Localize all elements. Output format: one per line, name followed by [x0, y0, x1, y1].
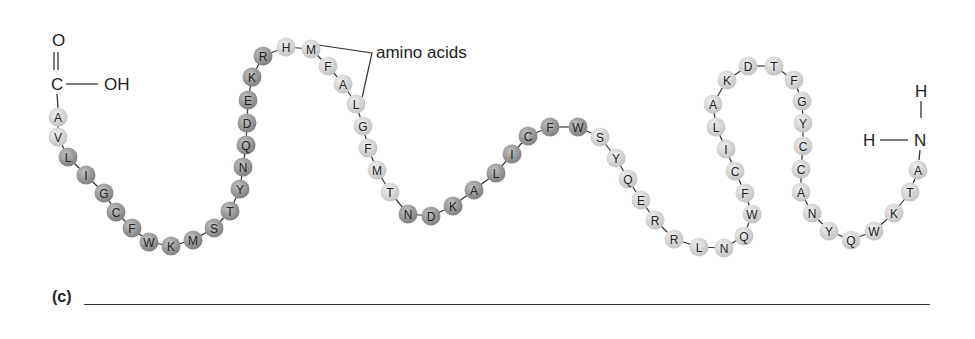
- residue-letter: C: [524, 130, 533, 144]
- amino-acid-residue: L: [707, 118, 726, 137]
- residue-letter: N: [239, 161, 248, 175]
- residue-letter: A: [914, 164, 922, 178]
- residue-letter: Y: [799, 117, 807, 131]
- amino-acid-residue: W: [140, 233, 159, 252]
- hydrogen-top-label: H: [915, 82, 927, 101]
- amino-acid-residue: Q: [735, 227, 754, 246]
- amino-acid-residue: I: [717, 140, 736, 159]
- residue-letter: G: [358, 120, 367, 134]
- residue-letter: S: [210, 222, 218, 236]
- amino-acid-residue: V: [49, 128, 68, 147]
- amino-acid-residue: T: [765, 57, 784, 76]
- amino-acid-residue: A: [334, 75, 353, 94]
- amino-acid-residue: T: [221, 202, 240, 221]
- residue-letter: M: [306, 43, 316, 57]
- amino-acid-residue: F: [736, 184, 755, 203]
- residue-letter: A: [797, 186, 805, 200]
- amino-acid-residue: W: [743, 205, 762, 224]
- amino-acid-residue: L: [690, 238, 709, 257]
- amino-acid-residue: F: [123, 219, 142, 238]
- amino-acid-residue: C: [792, 160, 811, 179]
- amino-acid-residue: A: [49, 108, 68, 127]
- amino-acid-residue: K: [718, 71, 737, 90]
- residue-letter: F: [364, 142, 371, 156]
- amino-acid-residue: A: [704, 95, 723, 114]
- carboxyl-group: O C OH: [51, 31, 130, 108]
- amino-acid-residue: F: [359, 139, 378, 158]
- amino-acid-residue: G: [354, 117, 373, 136]
- amino-acid-residue: R: [665, 230, 684, 249]
- amino-acid-residue: A: [465, 181, 484, 200]
- amino-group: H H N: [863, 82, 927, 160]
- amino-acid-residue: Y: [794, 114, 813, 133]
- residue-letter: R: [651, 214, 660, 228]
- amino-acid-residue: C: [107, 203, 126, 222]
- amino-acid-residue: I: [77, 166, 96, 185]
- amino-acid-residue: E: [239, 91, 258, 110]
- residue-letter: C: [731, 165, 740, 179]
- residue-letter: M: [188, 234, 198, 248]
- residue-letter: E: [244, 94, 252, 108]
- residue-letter: E: [637, 194, 645, 208]
- answer-line[interactable]: [84, 304, 930, 305]
- residue-letter: F: [324, 60, 331, 74]
- amino-acid-residue: L: [347, 95, 366, 114]
- amino-acid-residue: H: [277, 38, 296, 57]
- amino-acid-residue: Y: [231, 180, 250, 199]
- amino-acid-residue: N: [803, 204, 822, 223]
- amino-acids-label: amino acids: [376, 43, 467, 62]
- residue-letter: H: [282, 41, 291, 55]
- residue-letter: K: [167, 240, 175, 254]
- residue-letter: W: [746, 208, 758, 222]
- amino-acid-residue: R: [646, 211, 665, 230]
- amino-acid-residue: K: [243, 68, 262, 87]
- amino-acid-residue: R: [254, 47, 273, 66]
- hydrogen-left-label: H: [863, 131, 875, 150]
- polypeptide-diagram: O C OH H H N amino acids AVLIGCFWKMSTYNQ…: [0, 0, 975, 339]
- amino-acid-residue: L: [487, 164, 506, 183]
- residue-letter: F: [790, 74, 797, 88]
- residue-letter: K: [248, 71, 256, 85]
- residue-letter: F: [546, 121, 553, 135]
- amino-acid-residue: S: [591, 128, 610, 147]
- amino-acid-residue: N: [234, 158, 253, 177]
- amino-acid-residue: F: [785, 71, 804, 90]
- amino-acid-residue: C: [519, 127, 538, 146]
- residue-letter: Q: [241, 139, 250, 153]
- residue-letter: Y: [612, 152, 620, 166]
- residue-letter: A: [470, 184, 478, 198]
- amino-acid-residue: Q: [619, 170, 638, 189]
- amino-acid-residue: C: [726, 162, 745, 181]
- amino-acid-residue: G: [793, 92, 812, 111]
- amino-acid-residue: T: [381, 183, 400, 202]
- residue-letter: T: [770, 60, 778, 74]
- hydroxyl-label: OH: [104, 75, 130, 94]
- oxygen-label: O: [52, 31, 65, 50]
- residue-letter: A: [339, 78, 347, 92]
- amino-acid-residue: G: [95, 184, 114, 203]
- residue-letter: V: [54, 131, 62, 145]
- residue-letter: I: [84, 169, 87, 183]
- residue-letter: C: [797, 163, 806, 177]
- n-residue-bond: [919, 150, 920, 160]
- amino-acid-residue: I: [503, 145, 522, 164]
- amino-acid-residue: W: [569, 118, 588, 137]
- amino-acid-residue: N: [399, 205, 418, 224]
- residue-letter: A: [54, 111, 62, 125]
- residue-letter: Q: [846, 234, 855, 248]
- residue-letter: D: [243, 117, 252, 131]
- amino-acid-residue: M: [184, 231, 203, 250]
- question-label: (c): [52, 288, 72, 306]
- residue-letter: M: [372, 164, 382, 178]
- residue-letter: N: [404, 208, 413, 222]
- residue-letter: R: [670, 233, 679, 247]
- amino-acid-residue: W: [865, 222, 884, 241]
- residue-letter: I: [510, 148, 513, 162]
- amino-acid-residue: K: [885, 204, 904, 223]
- residue-letter: Q: [623, 173, 632, 187]
- residue-letter: Y: [236, 183, 244, 197]
- amino-acid-residue: C: [794, 137, 813, 156]
- amino-acid-residue: T: [901, 183, 920, 202]
- residue-letter: Q: [739, 230, 748, 244]
- residue-letter: G: [797, 95, 806, 109]
